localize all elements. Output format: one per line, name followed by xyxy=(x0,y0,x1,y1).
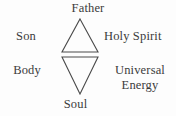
label-son: Son xyxy=(0,30,52,44)
upward-triangle-icon xyxy=(62,19,98,52)
diagram-canvas: Father Son Holy Spirit Body Universal En… xyxy=(0,0,176,116)
label-universal-energy-line-1: Universal xyxy=(104,63,176,78)
label-father: Father xyxy=(0,2,176,16)
label-soul: Soul xyxy=(0,98,151,112)
downward-triangle-icon xyxy=(62,57,98,94)
label-universal-energy: Universal Energy xyxy=(104,63,176,93)
label-body: Body xyxy=(0,64,54,78)
label-universal-energy-line-2: Energy xyxy=(104,78,176,93)
label-holy-spirit: Holy Spirit xyxy=(104,30,176,44)
